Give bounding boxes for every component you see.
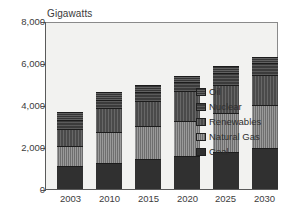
bar-segment-nuclear [57, 120, 83, 129]
bar-segment-coal [96, 163, 122, 190]
bar-segment-gas [135, 126, 161, 159]
legend-item-nuclear[interactable]: Nuclear [196, 99, 274, 114]
x-tick-label-2025: 2025 [206, 193, 245, 204]
legend-swatch-coal-icon [196, 148, 206, 156]
chart-legend: OilNuclearRenewablesNatural GasCoal [196, 84, 274, 159]
bar-2010 [96, 92, 122, 190]
y-tick-label: 0 [7, 184, 45, 195]
bar-segment-renew [135, 101, 161, 126]
x-tick-label-2010: 2010 [90, 193, 129, 204]
legend-item-coal[interactable]: Coal [196, 144, 274, 159]
bar-segment-nuclear [96, 100, 122, 108]
legend-item-gas[interactable]: Natural Gas [196, 129, 274, 144]
chart-figure: Gigawatts 02,0004,0006,0008,000 20032010… [0, 0, 292, 213]
bar-segment-nuclear [135, 92, 161, 100]
legend-label: Natural Gas [209, 132, 260, 142]
legend-swatch-gas-icon [196, 133, 206, 141]
legend-label: Renewables [209, 117, 261, 127]
x-axis-line [45, 189, 278, 190]
legend-swatch-nuclear-icon [196, 103, 206, 111]
bar-segment-renew [96, 108, 122, 132]
bar-2003 [57, 112, 83, 190]
bar-2015 [135, 85, 161, 190]
bar-segment-oil [57, 112, 83, 119]
bar-segment-oil [213, 66, 239, 73]
bar-segment-oil [96, 92, 122, 99]
legend-item-renew[interactable]: Renewables [196, 114, 274, 129]
y-tick-label: 8,000 [7, 16, 45, 27]
y-tick-label: 2,000 [7, 142, 45, 153]
y-tick-label: 4,000 [7, 100, 45, 111]
legend-label: Coal [209, 147, 229, 157]
legend-swatch-oil-icon [196, 88, 206, 96]
bar-segment-gas [57, 146, 83, 166]
x-axis: 200320102015202020252030 [45, 193, 278, 209]
y-tick-label: 6,000 [7, 58, 45, 69]
bar-segment-renew [57, 129, 83, 146]
x-tick-label-2003: 2003 [51, 193, 90, 204]
bar-segment-nuclear [252, 63, 278, 75]
x-tick-label-2020: 2020 [168, 193, 207, 204]
legend-swatch-renew-icon [196, 118, 206, 126]
legend-label: Nuclear [209, 102, 242, 112]
bar-segment-coal [135, 159, 161, 191]
x-tick-label-2015: 2015 [129, 193, 168, 204]
bar-segment-oil [135, 85, 161, 92]
chart-title: Gigawatts [47, 8, 92, 19]
legend-label: Oil [209, 87, 221, 97]
x-tick-label-2030: 2030 [245, 193, 284, 204]
bar-segment-gas [96, 132, 122, 162]
bar-segment-coal [174, 156, 200, 190]
legend-item-oil[interactable]: Oil [196, 84, 274, 99]
y-axis: 02,0004,0006,0008,000 [0, 0, 45, 213]
bar-segment-coal [57, 166, 83, 190]
